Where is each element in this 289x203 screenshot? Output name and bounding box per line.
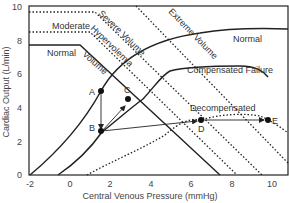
x-tick: -2	[26, 179, 34, 189]
compensated-failure-curve	[58, 66, 268, 175]
arrow-b-to-d	[102, 121, 197, 131]
point-b-label: B	[89, 123, 95, 133]
point-c-marker	[125, 96, 131, 102]
y-tick: 0	[17, 170, 22, 180]
point-e-label: E	[272, 116, 278, 126]
extreme-volume-line	[136, 6, 288, 163]
extreme-volume-label: Extreme Volume	[167, 6, 220, 60]
moderate-label: Moderate	[52, 21, 90, 31]
x-tick: 10	[267, 179, 277, 189]
point-e-marker	[265, 117, 271, 123]
x-tick: 6	[188, 179, 193, 189]
y-tick: 8	[17, 36, 22, 46]
arrow-b-to-c	[102, 106, 125, 131]
y-tick: 4	[17, 103, 22, 113]
point-c-label: C	[124, 85, 131, 95]
x-axis-label: Central Venous Pressure (mmHg)	[82, 191, 217, 201]
point-b-marker	[98, 128, 104, 134]
x-tick: 0	[67, 179, 72, 189]
volume-label: Volume	[81, 49, 110, 77]
point-a-marker	[98, 88, 104, 94]
y-tick: 10	[12, 2, 22, 12]
y-axis: 0 2 4 6 8 10 Cardiac Output (L/min)	[1, 2, 22, 180]
x-tick: 8	[229, 179, 234, 189]
point-a-label: A	[89, 87, 95, 97]
point-d-label: D	[198, 124, 205, 134]
normal-volume-label: Normal	[47, 48, 76, 58]
point-d-marker	[198, 117, 204, 123]
decompensated-label: Decompensated	[190, 103, 256, 113]
y-axis-label: Cardiac Output (L/min)	[1, 46, 11, 137]
normal-curve-label: Normal	[233, 34, 262, 44]
compensated-failure-label: Compensated Failure	[187, 65, 273, 75]
x-tick: 4	[148, 179, 153, 189]
x-axis: -2 0 2 4 6 8 10 Central Venous Pressure …	[26, 179, 277, 201]
x-tick: 2	[107, 179, 112, 189]
cardiac-output-chart: 0 2 4 6 8 10 Cardiac Output (L/min) -2 0…	[0, 0, 289, 203]
y-tick: 6	[17, 69, 22, 79]
severe-volume-line	[29, 12, 262, 175]
y-tick: 2	[17, 137, 22, 147]
